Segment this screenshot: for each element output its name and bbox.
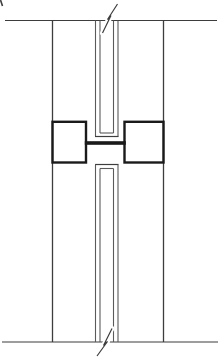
detail-drawing-page: [0, 0, 222, 359]
drawing-background: [0, 0, 222, 359]
connector-web: [85, 141, 126, 145]
technical-drawing: [0, 0, 222, 359]
